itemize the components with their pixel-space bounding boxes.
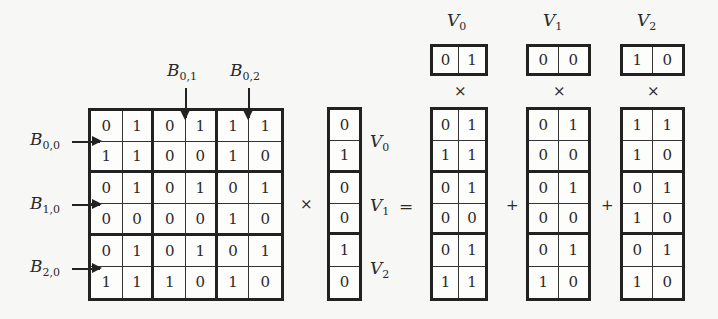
block-label-b00: B0,0	[30, 131, 60, 151]
matrix-cell: 1	[154, 267, 186, 298]
vector-label-v0: V0	[370, 133, 389, 153]
times-operator: ×	[300, 197, 313, 212]
matrix-cell: 0	[330, 110, 359, 141]
block-matrix: 010111110010010101000010010101111010	[88, 108, 284, 301]
matrix-cell: 0	[123, 204, 155, 235]
matrix-cell: 1	[123, 267, 155, 298]
matrix-cell: 0	[186, 142, 218, 173]
matrix-cell: 0	[433, 204, 459, 235]
matrix-cell: 1	[218, 204, 250, 235]
matrix-cell: 0	[529, 235, 559, 266]
matrix-cell: 1	[459, 47, 485, 73]
matrix-cell: 1	[123, 111, 155, 142]
column-block-1: 010001000110	[526, 107, 591, 301]
matrix-cell: 1	[459, 267, 485, 298]
matrix-cell: 0	[154, 142, 186, 173]
matrix-cell: 0	[154, 204, 186, 235]
matrix-cell: 1	[186, 173, 218, 204]
matrix-cell: 1	[623, 204, 653, 235]
matrix-cell: 1	[249, 236, 281, 267]
matrix-cell: 1	[433, 267, 459, 298]
matrix-cell: 1	[623, 47, 653, 73]
matrix-cell: 1	[459, 141, 485, 172]
matrix-cell: 0	[623, 235, 653, 266]
matrix-cell: 0	[330, 173, 359, 204]
v0-segment: 01	[430, 44, 488, 76]
matrix-cell: 1	[186, 111, 218, 142]
matrix-cell: 0	[653, 141, 683, 172]
column-block-2: 111001100110	[620, 107, 685, 301]
matrix-cell: 0	[249, 267, 281, 298]
matrix-cell: 0	[529, 173, 559, 204]
matrix-cell: 0	[559, 47, 589, 73]
matrix-cell: 0	[330, 267, 359, 298]
matrix-cell: 0	[433, 47, 459, 73]
block-label-b01: B0,1	[167, 62, 197, 82]
matrix-cell: 1	[123, 236, 155, 267]
matrix-cell: 1	[459, 173, 485, 204]
matrix-cell: 0	[529, 141, 559, 172]
matrix-cell: 1	[218, 267, 250, 298]
matrix-cell: 1	[433, 141, 459, 172]
decomp-label-v2: V2	[637, 12, 656, 32]
matrix-cell: 0	[433, 173, 459, 204]
v2-segment: 10	[620, 44, 685, 76]
plus-operator: +	[506, 198, 519, 213]
matrix-cell: 1	[623, 267, 653, 298]
matrix-cell: 1	[459, 235, 485, 266]
matrix-cell: 0	[249, 142, 281, 173]
arrow-right-icon	[72, 141, 100, 143]
matrix-cell: 1	[186, 236, 218, 267]
matrix-cell: 0	[559, 141, 589, 172]
decomp-label-v1: V1	[543, 12, 562, 32]
matrix-cell: 0	[529, 47, 559, 73]
matrix-cell: 0	[433, 235, 459, 266]
matrix-cell: 1	[330, 235, 359, 266]
matrix-cell: 1	[559, 110, 589, 141]
v1-segment: 00	[526, 44, 591, 76]
block-label-b10: B1,0	[30, 195, 60, 215]
matrix-cell: 0	[218, 173, 250, 204]
matrix-cell: 1	[559, 173, 589, 204]
matrix-cell: 1	[653, 235, 683, 266]
matrix-cell: 1	[218, 142, 250, 173]
matrix-cell: 1	[330, 141, 359, 172]
times-operator: ×	[553, 84, 566, 99]
matrix-cell: 1	[249, 173, 281, 204]
matrix-cell: 0	[91, 204, 123, 235]
times-operator: ×	[454, 84, 467, 99]
column-block-0: 011101000111	[430, 107, 488, 301]
matrix-cell: 0	[249, 204, 281, 235]
matrix-cell: 1	[653, 110, 683, 141]
matrix-cell: 0	[653, 204, 683, 235]
matrix-cell: 0	[459, 204, 485, 235]
matrix-cell: 0	[653, 47, 683, 73]
decomp-label-v0: V0	[447, 12, 466, 32]
matrix-cell: 0	[330, 204, 359, 235]
matrix-cell: 1	[91, 142, 123, 173]
matrix-cell: 0	[186, 204, 218, 235]
matrix-cell: 1	[623, 141, 653, 172]
matrix-cell: 1	[123, 173, 155, 204]
matrix-cell: 1	[249, 111, 281, 142]
times-operator: ×	[647, 84, 660, 99]
matrix-cell: 1	[623, 110, 653, 141]
matrix-cell: 1	[459, 110, 485, 141]
vector-label-v1: V1	[370, 197, 389, 217]
matrix-cell: 1	[653, 173, 683, 204]
matrix-cell: 1	[123, 142, 155, 173]
arrow-right-icon	[72, 204, 100, 206]
matrix-cell: 1	[559, 235, 589, 266]
arrow-down-icon	[185, 88, 187, 118]
matrix-cell: 0	[559, 204, 589, 235]
arrow-right-icon	[72, 268, 100, 270]
matrix-cell: 0	[559, 267, 589, 298]
matrix-cell: 0	[218, 236, 250, 267]
block-label-b20: B2,0	[30, 258, 60, 278]
matrix-cell: 0	[529, 204, 559, 235]
plus-operator: +	[601, 198, 614, 213]
matrix-cell: 1	[529, 267, 559, 298]
vector-label-v2: V2	[370, 260, 389, 280]
matrix-cell: 0	[529, 110, 559, 141]
arrow-down-icon	[248, 88, 250, 118]
